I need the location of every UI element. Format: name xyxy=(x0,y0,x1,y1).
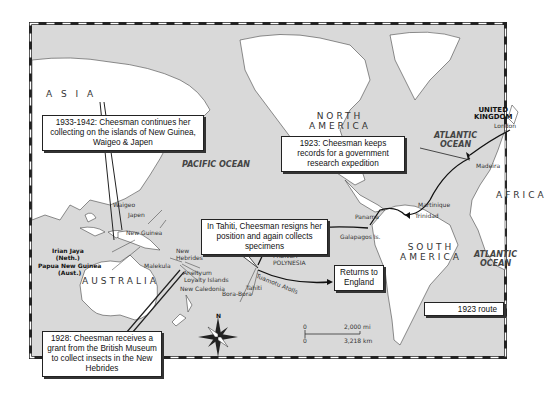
place-panama: Panama xyxy=(355,213,379,220)
place-waigeo: Waigeo xyxy=(113,201,135,208)
label-pacific-ocean: PACIFIC OCEAN xyxy=(182,160,250,169)
label-south-america: SOUTHAMERICA xyxy=(400,242,462,262)
scale-km: 3,218 km xyxy=(344,337,372,344)
place-japen: Japen xyxy=(128,211,145,218)
place-trinidad: Trinidad xyxy=(415,212,439,219)
scale-zero-mi: 0 xyxy=(303,323,307,330)
place-papua-new-guinea: Papua New Guinea(Aust.) xyxy=(38,262,101,276)
south-america-landmass xyxy=(372,205,458,345)
place-new-hebrides: NewHebrides xyxy=(176,247,203,261)
place-new-guinea: New Guinea xyxy=(126,229,162,236)
label-united-kingdom: UNITEDKINGDOM xyxy=(474,107,512,121)
scale-zero-km: 0 xyxy=(303,337,307,344)
label-australia: AUSTRALIA xyxy=(82,276,159,286)
callout-1933-1942: 1933-1942: Cheesman continues her collec… xyxy=(42,115,204,151)
label-asia: A S I A xyxy=(46,89,96,99)
place-martinique: Martinique xyxy=(418,201,450,208)
scale-mi: 2,000 mi xyxy=(344,323,371,330)
callout-returns-to-england: Returns to England xyxy=(334,265,384,291)
compass-rose-icon xyxy=(198,317,238,357)
compass-north-label: N xyxy=(216,312,221,319)
place-london: London xyxy=(494,122,516,129)
legend-box: 1923 route xyxy=(424,302,504,316)
callout-1928: 1928: Cheesman receives a grant from the… xyxy=(42,331,162,377)
place-galapagos: Galapagos Is. xyxy=(340,233,380,240)
place-malekula: Malekula xyxy=(144,262,171,269)
place-bora-bora: Bora-Bora xyxy=(222,290,252,297)
callout-tahiti: In Tahiti, Cheesman resigns her position… xyxy=(201,219,328,255)
place-irian-jaya: Irian Jaya(Neth.) xyxy=(52,247,84,261)
label-africa: AFRICA xyxy=(496,190,547,200)
callout-1923: 1923: Cheesman keeps records for a gover… xyxy=(281,136,405,172)
place-new-caledonia: New Caledonia xyxy=(180,285,225,292)
label-atlantic-ocean-south: ATLANTICOCEAN xyxy=(474,250,517,268)
place-madeira: Madeira xyxy=(476,162,500,169)
greenland-landmass xyxy=(390,32,460,100)
label-atlantic-ocean-north: ATLANTICOCEAN xyxy=(434,131,477,149)
label-north-america: NORTHAMERICA xyxy=(309,111,371,131)
place-aneityum: Aneityum xyxy=(183,269,212,276)
legend-label: 1923 route xyxy=(458,305,497,314)
place-loyalty-islands: Loyalty Islands xyxy=(184,276,229,283)
